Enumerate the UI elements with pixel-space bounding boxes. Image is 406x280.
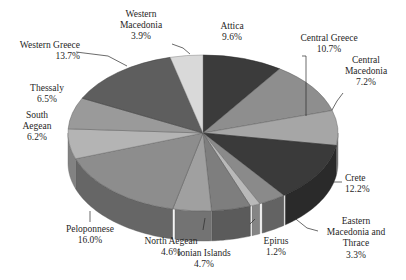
slice-label-epirus-pct: 1.2% xyxy=(249,247,303,258)
slice-label-thessaly-pct: 6.5% xyxy=(16,94,78,105)
slice-label-emt-pct: 3.3% xyxy=(310,250,402,261)
pie-top-surface xyxy=(68,55,338,211)
leader-line-central-macedonia xyxy=(332,93,343,110)
slice-label-eastern-macedonia-and-thrace: Eastern Macedonia and Thrace 3.3% xyxy=(310,216,402,261)
slice-label-epirus-name: Epirus xyxy=(249,236,303,247)
slice-label-central-macedonia-name2: Macedonia xyxy=(328,66,404,77)
slice-label-western-greece: Western Greece 13.7% xyxy=(2,40,80,62)
slice-label-western-macedonia-name1: Western xyxy=(108,9,174,20)
slice-label-central-greece-name: Central Greece xyxy=(285,33,373,44)
slice-label-central-macedonia: Central Macedonia 7.2% xyxy=(328,55,404,89)
slice-label-western-macedonia-pct: 3.9% xyxy=(108,31,174,42)
slice-label-western-macedonia: Western Macedonia 3.9% xyxy=(108,9,174,43)
slice-label-attica-name: Attica xyxy=(205,21,259,32)
slice-label-western-macedonia-name2: Macedonia xyxy=(108,20,174,31)
slice-label-central-macedonia-pct: 7.2% xyxy=(328,77,404,88)
slice-label-central-macedonia-name1: Central xyxy=(328,55,404,66)
slice-label-peloponnese-pct: 16.0% xyxy=(37,235,143,246)
slice-label-central-greece: Central Greece 10.7% xyxy=(285,33,373,55)
slice-label-emt-name1: Eastern xyxy=(310,216,402,227)
pie-slice-side-ionian-islands xyxy=(212,206,251,241)
slice-label-attica-pct: 9.6% xyxy=(205,32,259,43)
pie-chart-figure: Western Greece 13.7% Western Macedonia 3… xyxy=(0,0,406,280)
slice-label-epirus: Epirus 1.2% xyxy=(249,236,303,258)
slice-label-western-greece-name: Western Greece xyxy=(2,40,80,51)
slice-label-attica: Attica 9.6% xyxy=(205,21,259,43)
slice-label-south-aegean-pct: 6.2% xyxy=(6,132,68,143)
leader-line-western-greece xyxy=(76,52,127,66)
slice-label-emt-name2: Macedonia and xyxy=(310,227,402,238)
slice-label-crete-pct: 12.2% xyxy=(345,184,401,195)
slice-label-ionian-islands-name: Ionian Islands xyxy=(164,248,244,259)
slice-label-ionian-islands: Ionian Islands 4.7% xyxy=(164,248,244,270)
slice-label-crete-name: Crete xyxy=(345,173,401,184)
slice-label-south-aegean: South Aegean 6.2% xyxy=(6,110,68,144)
slice-label-western-greece-pct: 13.7% xyxy=(2,51,80,62)
slice-label-south-aegean-name2: Aegean xyxy=(6,121,68,132)
pie-slice-side-epirus xyxy=(252,204,260,236)
slice-label-south-aegean-name1: South xyxy=(6,110,68,121)
slice-label-thessaly-name: Thessaly xyxy=(16,83,78,94)
slice-label-crete: Crete 12.2% xyxy=(345,173,401,195)
slice-label-central-greece-pct: 10.7% xyxy=(285,44,373,55)
slice-label-peloponnese-name: Peloponnese xyxy=(37,224,143,235)
slice-label-ionian-islands-pct: 4.7% xyxy=(164,259,244,270)
slice-label-peloponnese: Peloponnese 16.0% xyxy=(37,224,143,246)
slice-label-north-aegean-name: North Aegean xyxy=(129,236,213,247)
slice-label-thessaly: Thessaly 6.5% xyxy=(16,83,78,105)
leader-line-western-macedonia xyxy=(172,44,190,54)
slice-label-emt-name3: Thrace xyxy=(310,238,402,249)
